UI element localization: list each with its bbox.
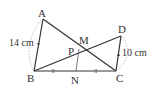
label-p: P xyxy=(68,45,74,57)
dc-arrow-icon xyxy=(117,53,120,56)
label-c: C xyxy=(116,72,123,84)
label-m: M xyxy=(79,34,89,46)
label-d: D xyxy=(118,23,126,35)
label-b: B xyxy=(27,72,34,84)
geometry-diagram: A B C D N M P 14 cm 10 cm xyxy=(0,0,159,92)
segment-nm xyxy=(76,49,79,71)
label-n: N xyxy=(71,74,79,86)
ab-arrow-icon xyxy=(37,43,40,46)
measure-dc: 10 cm xyxy=(122,47,147,58)
label-a: A xyxy=(38,7,46,19)
measure-ab: 14 cm xyxy=(9,37,34,48)
